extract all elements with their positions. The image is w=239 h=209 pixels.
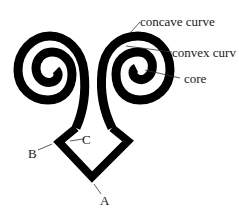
spiral-diagram: concave curve convex curv core C B A (0, 0, 239, 209)
point-b-label: B (28, 146, 37, 161)
concave-leader (130, 22, 140, 33)
left-spiral (18, 36, 85, 128)
point-c-label: C (82, 132, 91, 147)
concave-curve-label: concave curve (140, 14, 215, 29)
right-spiral (101, 36, 170, 128)
convex-curve-label: convex curv (172, 45, 236, 60)
b-leader (38, 144, 52, 150)
point-a-label: A (100, 193, 110, 208)
core-label: core (184, 71, 207, 86)
diamond-stem (59, 128, 128, 177)
